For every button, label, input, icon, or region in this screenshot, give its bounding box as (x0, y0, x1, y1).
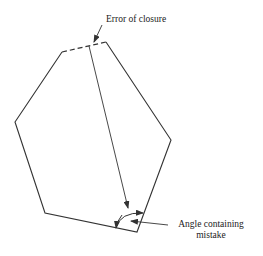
error-pointer-arrow (94, 25, 102, 42)
angle-pointer-arrow (131, 221, 168, 225)
angle-mistake-label: Angle containing mistake (170, 219, 252, 241)
diagram-canvas: Error of closure Angle containing mistak… (0, 0, 263, 256)
closure-gap-dashed (62, 42, 106, 52)
traverse-sides (15, 42, 171, 232)
angle-label-line2: mistake (170, 230, 252, 241)
traverse-figure (0, 0, 263, 256)
angle-label-line1: Angle containing (170, 219, 252, 230)
error-of-closure-label: Error of closure (106, 14, 166, 25)
interior-line-arrow (89, 46, 128, 208)
